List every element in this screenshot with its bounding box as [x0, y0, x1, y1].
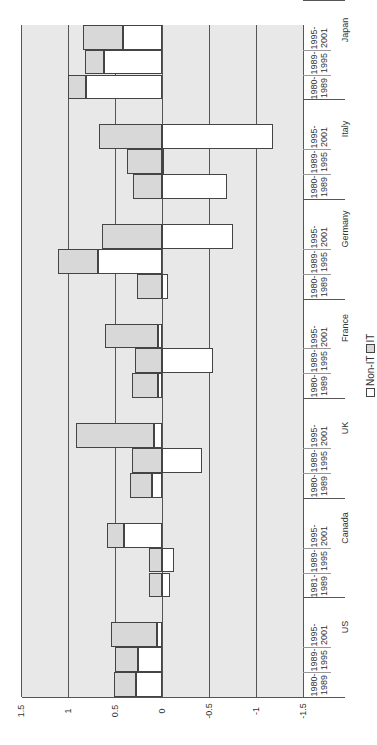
bar-it	[111, 622, 157, 647]
category-period-label: 1989- 1995	[309, 150, 331, 175]
bar-non-it	[162, 573, 170, 598]
category-period-label: 1980- 1989	[309, 175, 331, 200]
bar-it	[127, 149, 162, 174]
bar-it	[76, 423, 153, 448]
bar-non-it	[98, 249, 162, 274]
country-label: France	[340, 298, 350, 358]
axis-tick-label: 0	[157, 696, 167, 726]
category-axis-line	[303, 25, 304, 697]
bar-it	[135, 348, 162, 373]
country-label: Canada	[340, 498, 350, 558]
category-tick	[303, 149, 331, 150]
category-tick	[303, 672, 331, 673]
category-period-label: 1980- 1989	[309, 274, 331, 299]
category-tick	[303, 448, 331, 449]
bar-non-it	[123, 25, 162, 50]
bar-it	[99, 124, 162, 149]
category-period-label: 1989- 1995	[309, 349, 331, 374]
bar-non-it	[136, 672, 162, 697]
category-period-label: 1980- 1989	[309, 75, 331, 100]
bar-it	[115, 647, 138, 672]
stacked-bar-chart: 1.510.50-0.5-1-1.51980- 19891989- 199519…	[0, 0, 377, 745]
category-tick	[303, 373, 331, 374]
bar-non-it	[162, 548, 174, 573]
legend-swatch-non-it	[366, 388, 375, 397]
category-period-label: 1989- 1995	[309, 50, 331, 75]
country-label: Japan	[340, 0, 350, 60]
category-tick	[303, 274, 331, 275]
bar-it	[130, 473, 152, 498]
axis-tick-label: 1.5	[16, 696, 26, 726]
category-tick	[303, 473, 331, 474]
bar-it	[149, 573, 162, 598]
axis-tick-label: -0.5	[204, 696, 214, 726]
category-period-label: 1995- 2001	[309, 523, 331, 548]
bar-it	[102, 224, 162, 249]
bar-it	[132, 448, 162, 473]
category-period-label: 1980- 1989	[309, 473, 331, 498]
country-label: US	[340, 597, 350, 657]
category-period-label: 1981- 1989	[309, 573, 331, 598]
category-period-label: 1980- 1989	[309, 673, 331, 698]
bar-non-it	[162, 149, 164, 174]
category-tick	[303, 249, 331, 250]
category-period-label: 1995- 2001	[309, 623, 331, 648]
bar-non-it	[162, 448, 202, 473]
axis-tick-label: -1	[251, 696, 261, 726]
bar-non-it	[162, 124, 273, 149]
category-separator	[303, 0, 345, 1]
bar-it	[133, 174, 162, 199]
bar-it	[85, 50, 104, 75]
bar-non-it	[162, 224, 233, 249]
bar-non-it	[162, 274, 168, 299]
category-period-label: 1989- 1995	[309, 648, 331, 673]
bar-it	[149, 548, 162, 573]
category-tick	[303, 647, 331, 648]
bar-non-it	[162, 348, 213, 373]
category-period-label: 1995- 2001	[309, 324, 331, 349]
country-label: Germany	[340, 199, 350, 259]
gridline	[21, 25, 22, 697]
category-period-label: 1989- 1995	[309, 249, 331, 274]
bar-non-it	[152, 473, 162, 498]
bar-it	[107, 523, 124, 548]
bar-non-it	[162, 174, 227, 199]
category-period-label: 1980- 1989	[309, 374, 331, 399]
category-tick	[303, 75, 331, 76]
bar-non-it	[157, 622, 162, 647]
bar-it	[132, 373, 158, 398]
bar-it	[105, 324, 159, 349]
category-tick	[303, 174, 331, 175]
bar-non-it	[158, 324, 162, 349]
bar-non-it	[138, 647, 162, 672]
bar-non-it	[104, 50, 162, 75]
category-period-label: 1995- 2001	[309, 224, 331, 249]
bar-non-it	[158, 373, 162, 398]
category-period-label: 1989- 1995	[309, 449, 331, 474]
legend: Non-IT IT	[363, 317, 377, 397]
bar-non-it	[154, 423, 162, 448]
bar-it	[114, 672, 136, 697]
bar-non-it	[124, 523, 162, 548]
value-axis-line	[22, 697, 303, 698]
bar-non-it	[86, 75, 162, 100]
category-period-label: 1995- 2001	[309, 25, 331, 50]
axis-tick-label: 0.5	[110, 696, 120, 726]
legend-label-it: IT	[365, 334, 376, 343]
category-tick	[303, 348, 331, 349]
category-period-label: 1995- 2001	[309, 424, 331, 449]
axis-tick-label: -1.5	[298, 696, 308, 726]
category-tick	[303, 548, 331, 549]
category-tick	[303, 50, 331, 51]
category-period-label: 1989- 1995	[309, 548, 331, 573]
bar-it	[137, 274, 162, 299]
country-label: UK	[340, 398, 350, 458]
category-tick	[303, 573, 331, 574]
bar-it	[58, 249, 98, 274]
axis-tick-label: 1	[63, 696, 73, 726]
bar-it	[83, 25, 122, 50]
country-label: Italy	[340, 99, 350, 159]
gridline	[68, 25, 69, 697]
bar-it	[68, 75, 86, 100]
legend-swatch-it	[366, 344, 375, 353]
